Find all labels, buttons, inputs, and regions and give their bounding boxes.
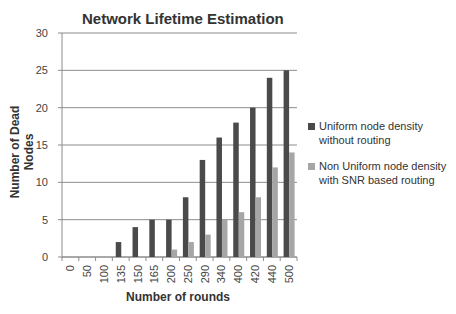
legend-label: Non Uniform node density [319, 159, 446, 173]
x-tick-label: 440 [266, 265, 278, 283]
bar [289, 152, 295, 257]
bar [188, 242, 194, 257]
x-tick-label: 420 [249, 265, 261, 283]
legend-swatch-light [308, 163, 315, 170]
bar [172, 250, 178, 257]
x-tick-label: 290 [199, 265, 211, 283]
x-tick-label: 500 [283, 265, 295, 283]
bar [116, 242, 122, 257]
bar [284, 70, 290, 257]
bar [149, 220, 155, 257]
bar [267, 78, 273, 257]
bar [233, 123, 239, 257]
x-tick-label: 50 [81, 265, 93, 277]
bar [183, 197, 189, 257]
legend-label: with SNR based routing [319, 173, 446, 187]
bar [272, 167, 278, 257]
legend-item-uniform: Uniform node density without routing [308, 119, 446, 147]
bar [166, 220, 172, 257]
x-tick-label: 165 [148, 265, 160, 283]
y-tick-label: 30 [36, 27, 48, 39]
bar [239, 212, 245, 257]
bar [250, 108, 256, 257]
x-tick-label: 340 [215, 265, 227, 283]
bar [133, 227, 139, 257]
legend-label: Uniform node density [319, 119, 423, 133]
bar [200, 160, 206, 257]
bar [256, 197, 261, 257]
bar [205, 235, 211, 257]
x-tick-label: 0 [64, 265, 76, 271]
y-tick-label: 10 [36, 176, 48, 188]
legend: Uniform node density without routing Non… [308, 119, 446, 199]
x-tick-label: 100 [98, 265, 110, 283]
x-tick-label: 150 [132, 265, 144, 283]
y-tick-label: 5 [42, 214, 48, 226]
legend-swatch-dark [308, 123, 315, 130]
legend-item-nonuniform: Non Uniform node density with SNR based … [308, 159, 446, 187]
y-tick-label: 0 [42, 251, 48, 263]
y-tick-label: 25 [36, 64, 48, 76]
y-tick-label: 15 [36, 139, 48, 151]
x-tick-label: 250 [182, 265, 194, 283]
legend-label: without routing [319, 133, 423, 147]
bar [216, 138, 222, 257]
x-tick-label: 135 [115, 265, 127, 283]
x-tick-label: 200 [165, 265, 177, 283]
bar [222, 220, 228, 257]
y-tick-label: 20 [36, 102, 48, 114]
x-tick-label: 400 [232, 265, 244, 283]
